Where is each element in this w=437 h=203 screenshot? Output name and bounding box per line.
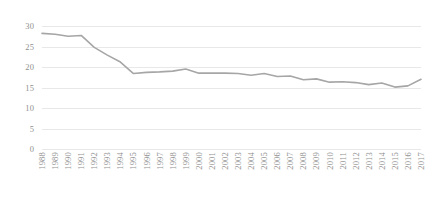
x-axis: 1988198919901991199219931994199519961997…	[42, 152, 421, 203]
x-tick-label: 2011	[339, 152, 348, 170]
x-tick-label: 2004	[247, 152, 256, 170]
x-tick-label: 1994	[116, 152, 125, 170]
x-tick-label: 1999	[182, 152, 191, 170]
x-tick-label: 2007	[286, 152, 295, 170]
x-tick-label: 2012	[352, 152, 361, 170]
x-tick-label: 1993	[103, 152, 112, 170]
x-tick-label: 1995	[129, 152, 138, 170]
x-tick-label: 2017	[417, 152, 426, 170]
x-tick-label: 2005	[260, 152, 269, 170]
x-tick-label: 1991	[77, 152, 86, 170]
x-tick-label: 2003	[234, 152, 243, 170]
x-tick-label: 2009	[312, 152, 321, 170]
x-tick-label: 1988	[38, 152, 47, 170]
x-tick-label: 2015	[391, 152, 400, 170]
x-tick-label: 2001	[208, 152, 217, 170]
x-tick-label: 1989	[51, 152, 60, 170]
x-tick-label: 1998	[169, 152, 178, 170]
x-tick-label: 2008	[299, 152, 308, 170]
data-line-series-1	[42, 33, 421, 87]
x-tick-label: 2002	[221, 152, 230, 170]
x-tick-label: 2016	[404, 152, 413, 170]
x-tick-label: 2010	[326, 152, 335, 170]
x-tick-label: 2013	[365, 152, 374, 170]
x-tick-label: 1996	[143, 152, 152, 170]
x-tick-label: 1997	[156, 152, 165, 170]
x-tick-label: 1992	[90, 152, 99, 170]
x-tick-label: 2014	[378, 152, 387, 170]
x-tick-label: 2000	[195, 152, 204, 170]
x-tick-label: 2006	[273, 152, 282, 170]
line-chart: 051015202530 198819891990199119921993199…	[0, 0, 437, 203]
x-tick-label: 1990	[64, 152, 73, 170]
